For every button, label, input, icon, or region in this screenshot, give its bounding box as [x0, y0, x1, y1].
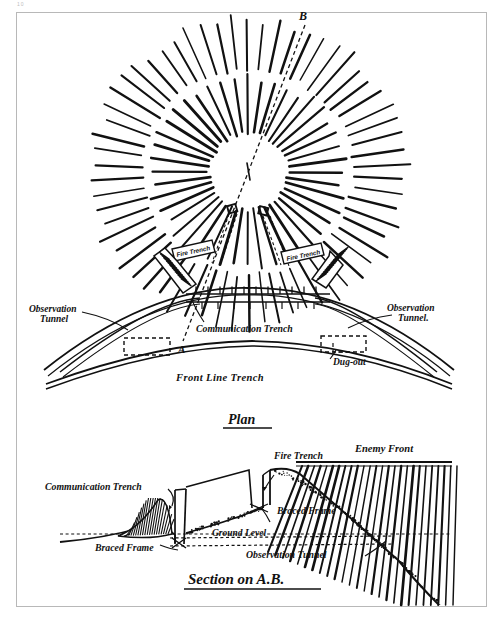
sap-approach-lines [212, 214, 289, 266]
observation-tunnel-left-label-2: Tunnel [40, 314, 69, 324]
section-braced-frame-right-label: Braced Frame [276, 505, 336, 516]
section-fire-trench-label: Fire Trench [273, 450, 323, 461]
plan-title: Plan [228, 412, 255, 427]
mine-crater-burst [92, 15, 411, 331]
dugout-right [321, 336, 366, 352]
section-observation-tunnel-label: Observation Tunnel [246, 549, 327, 560]
front-line-trench-label: Front Line Trench [175, 372, 264, 383]
communication-trench-label: Communication Trench [196, 323, 293, 334]
page-canvas: 10 B A [0, 0, 504, 630]
observation-tunnel-section [170, 544, 392, 546]
dugout-left [124, 338, 170, 355]
section-title: Section on A.B. [188, 571, 284, 587]
section-enemy-front-label: Enemy Front [354, 443, 414, 454]
section-ground-level-label: Ground Level [212, 528, 266, 538]
braced-frame-right-mark [250, 504, 268, 512]
fire-trench-cut-top [263, 470, 270, 475]
comm-trench-cut-right [184, 489, 186, 544]
parapet-slope [186, 470, 252, 508]
section-label-b: B [298, 9, 307, 23]
observation-tunnel-left-line [60, 298, 200, 372]
observation-tunnel-right-label-2: Tunnel. [398, 313, 429, 323]
comm-trench-cut-top [175, 489, 186, 490]
diagram-artwork: B A Fire Trench Fire Trench [0, 0, 504, 630]
section-communication-trench-label: Communication Trench [45, 481, 142, 492]
observation-tunnel-left-label-1: Observation [29, 304, 77, 314]
enemy-front-hatching [268, 466, 457, 605]
leader-observation-tunnel-section [365, 541, 386, 556]
sap-head-left [227, 204, 237, 214]
leader-comm-trench-section [168, 489, 173, 506]
sap-head-right [258, 206, 268, 215]
outer-ray-ring [92, 15, 411, 331]
section-braced-frame-left-label: Braced Frame [94, 542, 154, 553]
observation-tunnel-right-label-1: Observation [387, 303, 435, 313]
dugout-label: Dug-out [332, 357, 366, 367]
